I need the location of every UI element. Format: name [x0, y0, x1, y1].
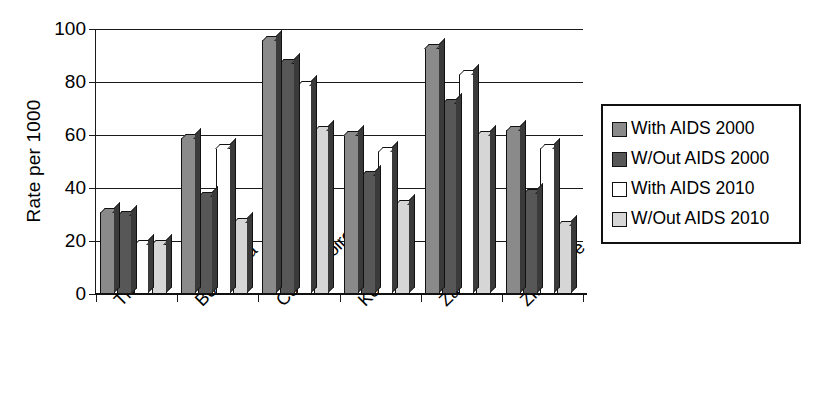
x-axis-category-labels: ThailandBotswanaCote d'IvoireKenyaZambia…: [96, 296, 583, 406]
y-axis-tick-label: 40: [40, 178, 86, 197]
bar-side-face: [212, 186, 218, 293]
bar-side-face: [247, 212, 253, 293]
bar-side-face: [473, 64, 479, 293]
legend-label: With AIDS 2010: [631, 180, 755, 198]
legend-swatch-icon: [612, 182, 627, 197]
legend: With AIDS 2000W/Out AIDS 2000With AIDS 2…: [601, 104, 801, 244]
y-axis-tick-label: 0: [40, 284, 86, 303]
bar-side-face: [571, 215, 577, 293]
bar: [100, 212, 115, 294]
bar-side-face: [520, 120, 526, 293]
bar-side-face: [311, 75, 317, 293]
bar: [506, 130, 521, 294]
y-axis-tick-label: 80: [40, 72, 86, 91]
bar-side-face: [114, 202, 120, 293]
bar-side-face: [131, 205, 137, 294]
bar: [262, 40, 277, 294]
bar: [344, 135, 359, 294]
legend-label: W/Out AIDS 2010: [631, 210, 769, 228]
legend-item: With AIDS 2000: [612, 114, 791, 144]
bar: [425, 48, 440, 294]
legend-item: W/Out AIDS 2000: [612, 144, 791, 174]
bar-side-face: [328, 120, 334, 293]
bar-side-face: [409, 194, 415, 293]
y-axis-tick-labels: 020406080100: [36, 0, 86, 408]
legend-item: W/Out AIDS 2010: [612, 204, 791, 234]
y-axis-tick-label: 100: [40, 19, 86, 38]
bar-side-face: [439, 38, 445, 293]
legend-label: W/Out AIDS 2000: [631, 150, 769, 168]
legend-swatch-icon: [612, 152, 627, 167]
bar-chart: Rate per 1000 020406080100 ThailandBotsw…: [0, 0, 820, 408]
y-axis-tick-label: 60: [40, 125, 86, 144]
y-axis-tick-label: 20: [40, 231, 86, 250]
bar-side-face: [230, 138, 236, 293]
bar-side-face: [358, 125, 364, 293]
bar-side-face: [195, 128, 201, 293]
bar: [181, 138, 196, 294]
bar-side-face: [276, 30, 282, 293]
legend-swatch-icon: [612, 212, 627, 227]
bar-side-face: [554, 138, 560, 293]
bar-side-face: [537, 183, 543, 293]
bar-side-face: [294, 53, 300, 293]
bar-side-face: [490, 125, 496, 293]
x-axis-tick: [583, 294, 584, 302]
bar-side-face: [392, 141, 398, 293]
bar-side-face: [166, 234, 172, 293]
legend-label: With AIDS 2000: [631, 120, 755, 138]
bar-side-face: [148, 234, 154, 293]
legend-swatch-icon: [612, 122, 627, 137]
bar-side-face: [456, 93, 462, 293]
bar-side-face: [375, 165, 381, 293]
legend-item: With AIDS 2010: [612, 174, 791, 204]
